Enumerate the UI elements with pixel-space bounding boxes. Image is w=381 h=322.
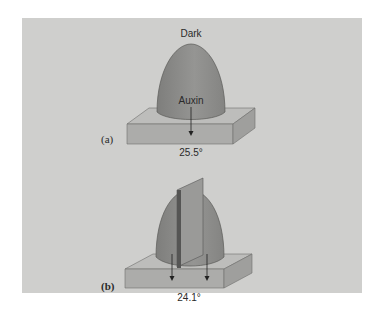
auxin-diagram: Dark Auxin (a) 25.5° (b) 24.1°	[0, 0, 381, 322]
angle-value-a: 25.5°	[179, 147, 202, 158]
mica-barrier	[177, 178, 203, 268]
panel-b-label: (b)	[101, 280, 115, 293]
panel-a-label: (a)	[101, 133, 114, 146]
panel-a: Dark Auxin (a) 25.5°	[101, 28, 255, 158]
auxin-label: Auxin	[178, 95, 203, 106]
dark-label: Dark	[180, 28, 202, 39]
angle-value-b: 24.1°	[177, 292, 200, 303]
panel-b: (b) 24.1°	[101, 178, 252, 303]
